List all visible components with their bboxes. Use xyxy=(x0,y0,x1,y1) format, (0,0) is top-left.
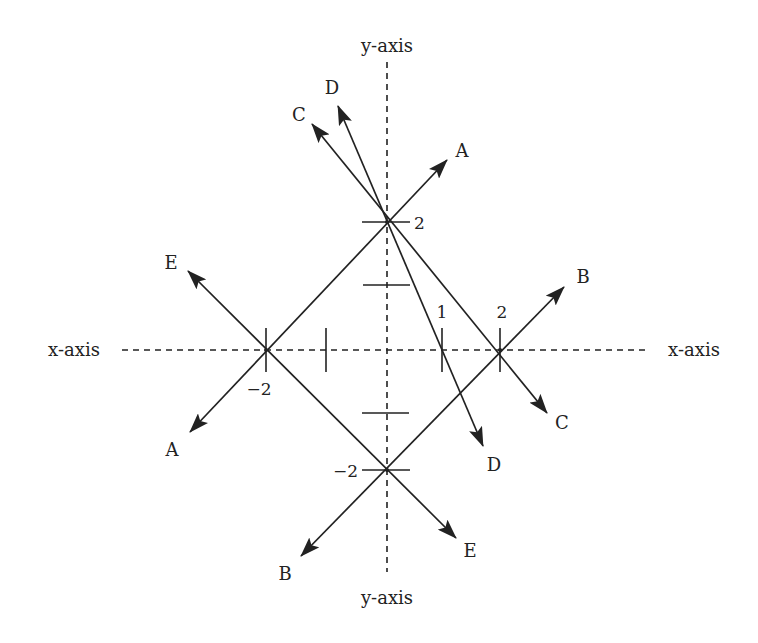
y-axis-label-top: y-axis xyxy=(360,35,413,56)
label-c-lower: C xyxy=(555,412,569,433)
line-a xyxy=(190,160,447,432)
tick-label-y-neg-2: −2 xyxy=(333,461,358,481)
label-b-upper: B xyxy=(576,266,589,287)
intersection-points xyxy=(264,220,502,472)
label-a-upper: A xyxy=(455,140,470,161)
label-e-lower: E xyxy=(463,540,476,561)
tick-label-x-pos-1: 1 xyxy=(437,302,448,322)
x-axis-label-left: x-axis xyxy=(48,339,100,360)
point-top xyxy=(385,220,389,224)
line-e xyxy=(188,271,456,538)
label-e-upper: E xyxy=(164,252,177,273)
label-c-upper: C xyxy=(292,104,306,125)
line-labels: A A B B C C D D E E xyxy=(164,77,589,584)
point-bottom xyxy=(385,468,389,472)
point-right xyxy=(498,348,502,352)
tick-marks xyxy=(266,222,500,470)
y-axis-label-bottom: y-axis xyxy=(360,587,413,608)
label-a-lower: A xyxy=(165,439,180,460)
axis-labels: y-axis y-axis x-axis x-axis xyxy=(48,35,720,608)
point-left xyxy=(264,348,268,352)
label-d-upper: D xyxy=(325,77,339,98)
label-d-lower: D xyxy=(487,454,501,475)
axes xyxy=(122,62,650,572)
tick-label-y-pos-2: 2 xyxy=(414,213,425,233)
line-c xyxy=(312,124,547,413)
coordinate-diagram: y-axis y-axis x-axis x-axis 2 −2 1 2 −2 … xyxy=(0,0,758,643)
lines xyxy=(188,106,564,556)
tick-labels: 2 −2 1 2 −2 xyxy=(246,213,507,481)
tick-label-x-pos-2: 2 xyxy=(497,302,508,322)
x-axis-label-right: x-axis xyxy=(668,339,720,360)
tick-label-x-neg-2: −2 xyxy=(246,379,271,399)
label-b-lower: B xyxy=(278,563,291,584)
